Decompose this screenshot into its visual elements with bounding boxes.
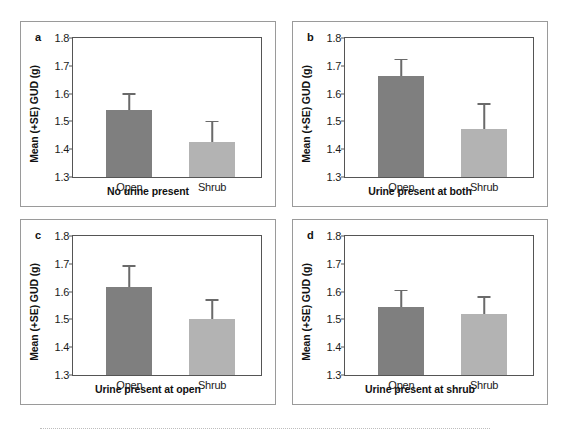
bar-a-open (106, 110, 152, 177)
y-tick-label: 1.7 (55, 60, 69, 72)
y-tick-mark (341, 375, 345, 376)
y-tick-mark (69, 347, 73, 348)
error-bar-cap (206, 299, 219, 301)
y-tick-mark (69, 177, 73, 178)
error-bar-cap (395, 290, 408, 292)
bar-b-open (378, 76, 424, 177)
y-tick-label: 1.5 (55, 115, 69, 127)
y-tick-label: 1.3 (55, 171, 69, 183)
error-bar-a-shrub (211, 121, 213, 142)
error-bar-cap (478, 103, 491, 105)
panel-letter-a: a (35, 31, 41, 43)
error-bar-a-open (129, 93, 131, 110)
y-axis-title-b: Mean (+SE) GUD (g) (300, 49, 312, 179)
y-tick-mark (69, 319, 73, 320)
x-axis-title-d: Urine present at shrub (293, 383, 547, 395)
error-bar-d-open (401, 290, 403, 307)
y-tick-mark (69, 149, 73, 150)
error-bar-b-shrub (483, 103, 485, 129)
y-tick-label: 1.7 (327, 258, 341, 270)
y-tick-mark (69, 236, 73, 237)
y-tick-mark (341, 263, 345, 264)
y-tick-label: 1.5 (55, 313, 69, 325)
plot-area-b: 1.31.41.51.61.71.8OpenShrub (344, 37, 534, 178)
figure-canvas: a Mean (+SE) GUD (g) 1.31.41.51.61.71.8O… (0, 0, 566, 438)
y-tick-mark (341, 121, 345, 122)
y-tick-label: 1.6 (327, 286, 341, 298)
panel-letter-c: c (35, 229, 41, 241)
y-tick-label: 1.8 (55, 230, 69, 242)
x-axis-title-a: No urine present (21, 185, 275, 197)
panel-a: a Mean (+SE) GUD (g) 1.31.41.51.61.71.8O… (20, 21, 276, 207)
y-tick-mark (69, 263, 73, 264)
plot-area-d: 1.31.41.51.61.71.8OpenShrub (344, 235, 534, 376)
bar-d-shrub (461, 314, 507, 375)
y-tick-label: 1.4 (327, 341, 341, 353)
y-tick-mark (69, 38, 73, 39)
plot-area-a: 1.31.41.51.61.71.8OpenShrub (72, 37, 262, 178)
bar-c-open (106, 287, 152, 375)
y-tick-label: 1.6 (327, 88, 341, 100)
error-bar-cap (123, 265, 136, 267)
panel-letter-d: d (307, 229, 314, 241)
y-tick-label: 1.4 (327, 143, 341, 155)
error-bar-d-shrub (483, 296, 485, 314)
y-tick-label: 1.4 (55, 341, 69, 353)
y-tick-mark (69, 93, 73, 94)
y-tick-label: 1.6 (55, 88, 69, 100)
y-tick-mark (69, 291, 73, 292)
error-bar-c-shrub (211, 299, 213, 318)
y-tick-mark (341, 347, 345, 348)
x-axis-title-c: Urine present at open (21, 383, 275, 395)
y-tick-label: 1.4 (55, 143, 69, 155)
y-tick-mark (341, 149, 345, 150)
bar-c-shrub (189, 319, 235, 375)
y-tick-mark (341, 319, 345, 320)
bar-b-shrub (461, 129, 507, 177)
panel-grid: a Mean (+SE) GUD (g) 1.31.41.51.61.71.8O… (20, 21, 548, 418)
panel-letter-b: b (307, 31, 314, 43)
x-axis-title-b: Urine present at both (293, 185, 547, 197)
y-tick-label: 1.6 (55, 286, 69, 298)
bar-d-open (378, 307, 424, 375)
panel-c: c Mean (+SE) GUD (g) 1.31.41.51.61.71.8O… (20, 219, 276, 405)
y-tick-label: 1.3 (55, 369, 69, 381)
y-tick-mark (341, 38, 345, 39)
y-tick-mark (341, 236, 345, 237)
y-tick-mark (69, 121, 73, 122)
y-tick-mark (341, 93, 345, 94)
y-tick-mark (69, 375, 73, 376)
y-tick-label: 1.7 (327, 60, 341, 72)
y-axis-title-d: Mean (+SE) GUD (g) (300, 247, 312, 377)
y-tick-label: 1.5 (327, 115, 341, 127)
y-axis-title-a: Mean (+SE) GUD (g) (28, 49, 40, 179)
y-tick-mark (69, 65, 73, 66)
y-tick-mark (341, 177, 345, 178)
bar-a-shrub (189, 142, 235, 177)
error-bar-cap (395, 59, 408, 61)
error-bar-cap (478, 296, 491, 298)
error-bar-cap (123, 93, 136, 95)
panel-d: d Mean (+SE) GUD (g) 1.31.41.51.61.71.8O… (292, 219, 548, 405)
error-bar-c-open (129, 265, 131, 287)
y-tick-label: 1.8 (55, 32, 69, 44)
error-bar-cap (206, 121, 219, 123)
y-tick-label: 1.3 (327, 369, 341, 381)
y-axis-title-c: Mean (+SE) GUD (g) (28, 247, 40, 377)
y-tick-label: 1.8 (327, 230, 341, 242)
bottom-dotted-rule (40, 428, 490, 430)
y-tick-label: 1.3 (327, 171, 341, 183)
y-tick-label: 1.7 (55, 258, 69, 270)
error-bar-b-open (401, 59, 403, 76)
panel-b: b Mean (+SE) GUD (g) 1.31.41.51.61.71.8O… (292, 21, 548, 207)
y-tick-label: 1.5 (327, 313, 341, 325)
y-tick-label: 1.8 (327, 32, 341, 44)
y-tick-mark (341, 65, 345, 66)
plot-area-c: 1.31.41.51.61.71.8OpenShrub (72, 235, 262, 376)
y-tick-mark (341, 291, 345, 292)
